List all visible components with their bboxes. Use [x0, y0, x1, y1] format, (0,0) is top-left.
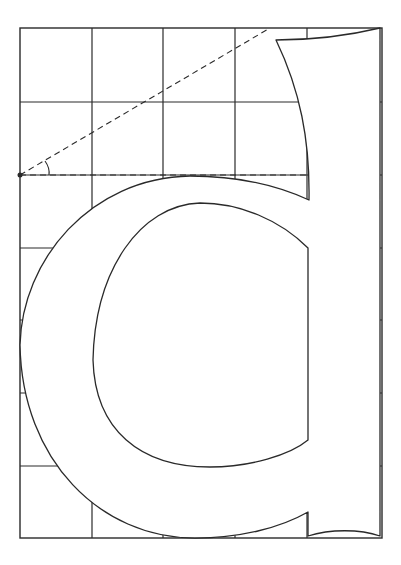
letter-construction-diagram: Construction of the lowercase letter d o… — [0, 0, 401, 565]
diagram-svg — [0, 0, 401, 565]
pivot-point — [18, 173, 23, 178]
